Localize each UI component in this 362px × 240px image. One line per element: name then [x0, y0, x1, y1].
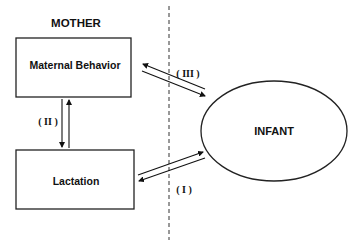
edge-III-label: ( III ) [176, 68, 199, 80]
edge-II-label: ( II ) [38, 116, 57, 128]
maternal-behavior-node: Maternal Behavior [16, 38, 131, 97]
arrow-to-infant-icon [138, 152, 203, 175]
edge-I-label: ( I ) [176, 184, 192, 196]
arrow-to-lactation-icon [139, 158, 205, 181]
edge-III: ( III ) [142, 64, 205, 96]
diagram-canvas: MOTHER Maternal Behavior Lactation INFAN… [0, 0, 362, 240]
mother-label: MOTHER [51, 17, 102, 29]
lactation-node: Lactation [16, 150, 134, 209]
edge-II: ( II ) [38, 99, 69, 148]
edge-I: ( I ) [138, 152, 205, 196]
lactation-label: Lactation [53, 175, 100, 187]
maternal-behavior-label: Maternal Behavior [29, 59, 120, 71]
infant-label: INFANT [254, 125, 294, 137]
infant-node: INFANT [201, 81, 347, 181]
